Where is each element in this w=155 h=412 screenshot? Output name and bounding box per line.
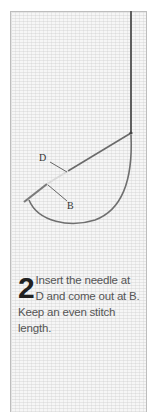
step-text: Insert the needle at D and come out at B… [18,274,140,334]
leader-line-b [48,185,67,201]
needle-path [47,171,68,184]
stitch-segment [24,184,47,202]
label-b: B [67,200,74,211]
thread-diagonal [68,133,131,171]
step-instruction: 2 Insert the needle at D and come out at… [18,272,140,336]
label-d: D [39,152,46,163]
step-number: 2 [18,274,35,301]
thread-loop [29,135,131,223]
thread-junction [129,131,132,134]
leader-line-d [50,162,67,172]
